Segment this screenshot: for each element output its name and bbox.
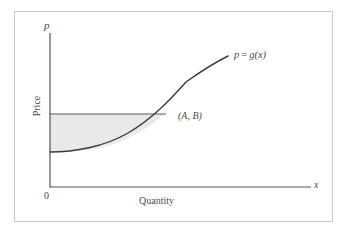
x-axis-symbol-label: x [314, 180, 318, 190]
curve-equation-rhs: g(x) [249, 49, 266, 60]
figure-container: p x 0 Quantity Price p=g(x) (A, B) [0, 0, 346, 237]
equilibrium-point-label: (A, B) [178, 111, 202, 121]
origin-label: 0 [44, 191, 49, 201]
y-axis-symbol-label: p [44, 20, 50, 31]
point-label-comma: , [187, 110, 190, 121]
y-axis-title: Price [32, 88, 42, 124]
curve-equation-equals: = [239, 49, 249, 60]
point-label-close-paren: ) [199, 110, 202, 121]
curve-equation-label: p=g(x) [234, 50, 266, 61]
x-axis-title: Quantity [139, 196, 174, 206]
